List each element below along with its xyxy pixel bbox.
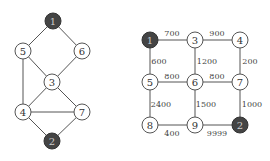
right-edge-weight: 1200 xyxy=(197,57,217,66)
right-edge-weight: 1000 xyxy=(242,100,262,109)
right-node-2: 2 xyxy=(232,117,248,133)
left-node-4: 4 xyxy=(15,104,31,120)
node-label: 2 xyxy=(49,136,55,147)
right-node-4: 4 xyxy=(232,32,248,48)
node-label: 2 xyxy=(237,120,243,131)
node-label: 3 xyxy=(192,35,198,46)
right-edge-weight: 600 xyxy=(151,57,166,66)
right-edge-weight: 1500 xyxy=(196,100,216,109)
right-edge-weight: 9999 xyxy=(207,129,227,138)
left-node-2: 2 xyxy=(44,133,60,149)
right-node-5: 5 xyxy=(142,74,158,90)
left-node-7: 7 xyxy=(74,104,90,120)
right-node-7: 7 xyxy=(232,74,248,90)
node-label: 3 xyxy=(49,77,55,88)
node-label: 4 xyxy=(20,107,26,118)
right-node-8: 8 xyxy=(142,117,158,133)
left-graph-nodes: 1563472 xyxy=(15,13,90,149)
node-label: 6 xyxy=(192,77,198,88)
right-edge-weight: 400 xyxy=(164,129,179,138)
left-node-3: 3 xyxy=(44,74,60,90)
right-edge-weight: 800 xyxy=(209,72,224,81)
node-label: 5 xyxy=(20,46,26,57)
right-node-6: 6 xyxy=(187,74,203,90)
right-node-1: 1 xyxy=(142,32,158,48)
node-label: 4 xyxy=(237,35,243,46)
right-node-9: 9 xyxy=(187,117,203,133)
right-node-3: 3 xyxy=(187,32,203,48)
left-node-1: 1 xyxy=(45,13,61,29)
node-label: 7 xyxy=(237,77,243,88)
node-label: 6 xyxy=(79,46,85,57)
node-label: 8 xyxy=(147,120,153,131)
right-edge-weight: 900 xyxy=(209,29,224,38)
left-node-5: 5 xyxy=(15,43,31,59)
right-edge-weight: 700 xyxy=(164,29,179,38)
right-edge-weight: 200 xyxy=(242,57,257,66)
node-label: 5 xyxy=(147,77,153,88)
node-label: 1 xyxy=(147,35,153,46)
left-node-6: 6 xyxy=(74,43,90,59)
node-label: 9 xyxy=(192,120,198,131)
node-label: 1 xyxy=(50,16,56,27)
graph-diagrams: 1563472 70090060012002008008002400150010… xyxy=(0,0,270,161)
right-graph-nodes: 134567892 xyxy=(142,32,248,133)
right-edge-weight: 2400 xyxy=(151,100,171,109)
node-label: 7 xyxy=(79,107,85,118)
right-edge-weight: 800 xyxy=(164,72,179,81)
